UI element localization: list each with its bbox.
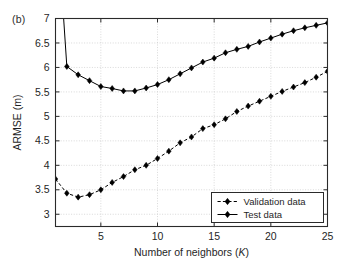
data-point-marker [257, 98, 262, 104]
series-test-data [56, 0, 330, 94]
data-point-marker [144, 162, 149, 168]
ytick-label: 4.5 [35, 134, 50, 146]
data-point-marker [302, 80, 307, 86]
x-axis-title-prefix: Number of neighbors ( [134, 246, 239, 258]
data-point-marker [87, 78, 92, 84]
ytick-label: 6.5 [35, 37, 50, 49]
data-point-marker [166, 148, 171, 154]
y-axis-title: ARMSE (m) [11, 95, 23, 151]
data-point-marker [87, 192, 92, 198]
legend-label: Validation data [244, 196, 307, 207]
ytick-label: 5 [44, 110, 50, 122]
ytick-label: 4 [44, 159, 50, 171]
data-point-marker [76, 72, 81, 78]
data-point-marker [132, 88, 137, 94]
data-point-marker [155, 82, 160, 88]
data-point-marker [121, 174, 126, 180]
data-point-marker [98, 187, 103, 193]
data-point-marker [76, 194, 81, 200]
data-point-marker [64, 190, 69, 196]
data-point-marker [155, 155, 160, 161]
data-point-marker [234, 46, 239, 52]
xtick-label: 5 [98, 230, 104, 242]
data-point-marker [110, 85, 115, 91]
series-validation-data [53, 68, 330, 200]
xtick-label: 15 [208, 230, 220, 242]
figure-panel-b: (b) 33.544.555.566.57510152025Number of … [0, 0, 343, 266]
data-point-marker [132, 167, 137, 173]
data-point-marker [280, 31, 285, 37]
data-point-marker [314, 74, 319, 80]
data-point-marker [268, 35, 273, 41]
data-point-marker [98, 84, 103, 90]
data-point-marker [166, 77, 171, 83]
data-point-marker [189, 134, 194, 140]
ytick-label: 3 [44, 208, 50, 220]
ytick-label: 5.5 [35, 86, 50, 98]
data-point-marker [121, 88, 126, 94]
data-point-marker [223, 50, 228, 56]
armse-vs-neighbors-chart: 33.544.555.566.57510152025Number of neig… [0, 0, 343, 266]
data-point-marker [291, 28, 296, 34]
data-point-marker [178, 71, 183, 77]
legend: Validation dataTest data [212, 193, 324, 223]
data-point-marker [212, 55, 217, 61]
data-point-marker [246, 103, 251, 109]
ytick-label: 7 [44, 12, 50, 24]
data-point-marker [302, 25, 307, 31]
xtick-label: 25 [322, 230, 334, 242]
data-point-marker [268, 93, 273, 99]
data-series-group [53, 0, 330, 200]
legend-label: Test data [244, 209, 283, 220]
data-point-marker [200, 59, 205, 65]
data-point-marker [200, 126, 205, 132]
data-point-marker [257, 39, 262, 45]
data-point-marker [314, 22, 319, 28]
data-point-marker [64, 63, 69, 69]
series-line [56, 0, 328, 91]
x-axis-title-suffix: ) [245, 246, 249, 258]
data-point-marker [189, 65, 194, 71]
ytick-label: 6 [44, 61, 50, 73]
data-point-marker [280, 88, 285, 94]
xtick-label: 10 [152, 230, 164, 242]
data-point-marker [291, 84, 296, 90]
data-point-marker [234, 108, 239, 114]
data-point-marker [110, 179, 115, 185]
data-point-marker [144, 85, 149, 91]
ytick-label: 3.5 [35, 183, 50, 195]
data-point-marker [246, 43, 251, 49]
data-point-marker [212, 122, 217, 128]
xtick-label: 20 [265, 230, 277, 242]
x-axis-title: Number of neighbors (K) [134, 246, 249, 258]
